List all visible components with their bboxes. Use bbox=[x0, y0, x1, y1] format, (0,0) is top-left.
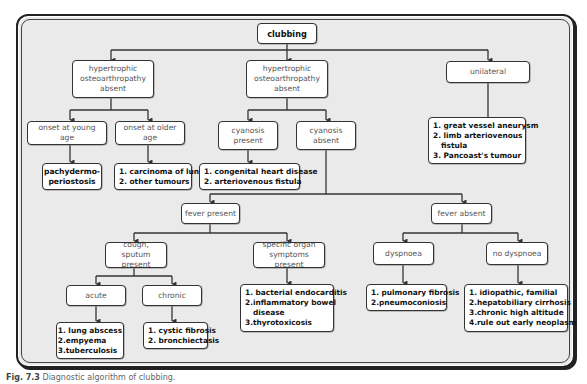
label: chronic bbox=[158, 291, 186, 301]
list-item: 1. great vessel aneurysm bbox=[433, 121, 538, 131]
line: hypertrophic bbox=[263, 64, 311, 74]
node-specific-organ-result-list: 1. bacterial endocarditis 2.inflammatory… bbox=[240, 284, 334, 332]
line: absent bbox=[100, 84, 126, 94]
line: symptoms present bbox=[257, 250, 321, 270]
node-fever-present: fever present bbox=[181, 203, 240, 224]
figure-caption-text: Diagnostic algorithm of clubbing. bbox=[42, 373, 175, 382]
node-hoa-absent-left: hypertrophic osteoarthropathy absent bbox=[72, 60, 154, 98]
node-cyanosis-present-result-list: 1. congenital heart disease 2. arteriove… bbox=[199, 163, 300, 190]
node-cyanosis-absent: cyanosis absent bbox=[296, 121, 356, 150]
node-cough-sputum: cough, sputum present bbox=[105, 242, 167, 268]
list-item: 2. limb arteriovenous bbox=[433, 131, 538, 141]
node-hoa-absent-center: hypertrophic osteoarthropathy absent bbox=[246, 60, 328, 98]
label: onset at young age bbox=[31, 123, 103, 143]
line: osteoarthropathy bbox=[254, 74, 320, 84]
node-onset-young: onset at young age bbox=[27, 121, 107, 145]
label: fever absent bbox=[438, 209, 486, 219]
list-item: 1. bacterial endocarditis bbox=[245, 288, 347, 298]
list-item: 1. cystic fibrosis bbox=[148, 326, 219, 336]
node-clubbing: clubbing bbox=[257, 23, 317, 44]
list-item: disease bbox=[245, 308, 347, 318]
list-item: 3.tuberculosis bbox=[58, 346, 122, 356]
list-item: 3.chronic high altitude bbox=[469, 308, 576, 318]
node-specific-organ: specific organ symptoms present bbox=[253, 242, 325, 268]
node-dyspnoea-result-list: 1. pulmonary fibrosis 2.pneumoconiosis bbox=[366, 284, 447, 311]
node-no-dyspnoea-result-list: 1. idiopathic, familial 2.hepatobiliary … bbox=[464, 284, 568, 332]
label: acute bbox=[85, 291, 106, 301]
node-older-result-list: 1. carcinoma of lung 2. other tumours bbox=[114, 163, 192, 190]
figure-caption: Fig. 7.3 Diagnostic algorithm of clubbin… bbox=[6, 373, 586, 384]
line: hypertrophic bbox=[89, 64, 137, 74]
node-dyspnoea: dyspnoea bbox=[373, 242, 434, 265]
list-item: 3. Pancoast's tumour bbox=[433, 151, 538, 161]
node-no-dyspnoea: no dyspnoea bbox=[486, 242, 548, 265]
line: cyanosis bbox=[232, 126, 265, 136]
line: cough, bbox=[123, 240, 149, 250]
list-item: 2.pneumoconiosis bbox=[371, 298, 460, 308]
list-item: 2. other tumours bbox=[119, 177, 204, 187]
list-item: 1. congenital heart disease bbox=[204, 167, 318, 177]
label: fever present bbox=[185, 209, 236, 219]
line: pachydermo- bbox=[44, 167, 100, 177]
list-item: 2.empyema bbox=[58, 336, 122, 346]
node-cyanosis-present: cyanosis present bbox=[218, 121, 278, 150]
node-onset-older: onset at older age bbox=[115, 121, 185, 145]
list-item: 1. lung abscess bbox=[58, 326, 122, 336]
line: absent bbox=[274, 84, 300, 94]
line: sputum present bbox=[109, 250, 163, 270]
node-pachydermoperiostosis: pachydermo- periostosis bbox=[42, 163, 102, 190]
node-chronic-result-list: 1. cystic fibrosis 2. bronchiectasis bbox=[143, 322, 208, 349]
node-acute-result-list: 1. lung abscess 2.empyema 3.tuberculosis bbox=[56, 322, 124, 359]
list-item: 2.inflammatory bowel bbox=[245, 298, 347, 308]
label: dyspnoea bbox=[385, 249, 422, 259]
list-item: 1. idiopathic, familial bbox=[469, 288, 576, 298]
figure-label: Fig. 7.3 bbox=[6, 373, 40, 382]
list-item: 2. arteriovenous fistula bbox=[204, 177, 318, 187]
node-fever-absent: fever absent bbox=[431, 203, 492, 224]
list-item: 1. carcinoma of lung bbox=[119, 167, 204, 177]
list-item: 2.hepatobiliary cirrhosis bbox=[469, 298, 576, 308]
node-clubbing-label: clubbing bbox=[267, 29, 307, 39]
list-item: 1. pulmonary fibrosis bbox=[371, 288, 460, 298]
line: cyanosis bbox=[310, 126, 343, 136]
label: onset at older age bbox=[119, 123, 181, 143]
line: absent bbox=[313, 136, 339, 146]
node-unilateral-result-list: 1. great vessel aneurysm 2. limb arterio… bbox=[428, 117, 526, 164]
line: present bbox=[234, 136, 263, 146]
node-unilateral: unilateral bbox=[446, 61, 530, 83]
node-chronic: chronic bbox=[142, 285, 202, 306]
list-item: 3.thyrotoxicosis bbox=[245, 318, 347, 328]
line: specific organ bbox=[262, 240, 315, 250]
line: periostosis bbox=[48, 177, 95, 187]
node-acute: acute bbox=[66, 285, 126, 306]
list-item: 4.rule out early neoplasm bbox=[469, 318, 576, 328]
list-item: 2. bronchiectasis bbox=[148, 336, 219, 346]
line: osteoarthropathy bbox=[80, 74, 146, 84]
label: no dyspnoea bbox=[493, 249, 542, 259]
list-item: fistula bbox=[433, 141, 538, 151]
node-unilateral-label: unilateral bbox=[470, 67, 506, 77]
